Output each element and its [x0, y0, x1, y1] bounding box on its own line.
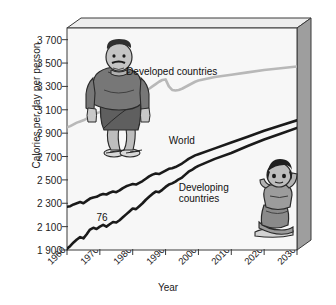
- box-top-panel: [67, 18, 311, 28]
- chart-container: Calories per day per person 3 7003 5003 …: [0, 0, 336, 305]
- developing-countries-label: Developingcountries: [179, 182, 229, 204]
- box-right-panel: [297, 18, 311, 250]
- developed-countries-label: Developed countries: [126, 66, 217, 77]
- data-point-76-label: 76: [97, 212, 108, 223]
- world-label: World: [169, 135, 195, 146]
- plot-area: [0, 0, 336, 305]
